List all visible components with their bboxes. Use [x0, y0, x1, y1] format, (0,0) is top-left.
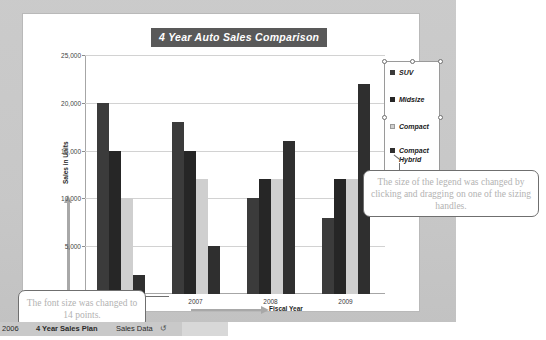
- bar-compact-hybrid-2008[interactable]: [283, 141, 295, 294]
- chart-title[interactable]: 4 Year Auto Sales Comparison: [151, 28, 327, 47]
- bar-suv-2007[interactable]: [172, 122, 184, 294]
- legend-item-compact[interactable]: Compact: [390, 122, 429, 131]
- bar-compact-2009[interactable]: [346, 179, 358, 294]
- y-axis-tick-label: 5,000: [65, 243, 81, 250]
- legend-sizing-handle[interactable]: [438, 59, 443, 64]
- bar-midsize-2008[interactable]: [259, 179, 271, 294]
- y-axis-tick-mark: [82, 103, 85, 104]
- y-axis-tick-mark: [82, 151, 85, 152]
- legend-swatch-icon: [390, 124, 395, 129]
- cell-reference-label: 2006: [2, 322, 19, 336]
- callout-legend-note: The size of the legend was changed by cl…: [363, 170, 539, 217]
- legend-item-label: Compact Hybrid: [399, 146, 429, 164]
- legend-item-midsize[interactable]: Midsize: [390, 95, 424, 104]
- bar-midsize-2006[interactable]: [109, 151, 121, 294]
- legend-swatch-icon: [390, 97, 395, 102]
- bar-compact-2007[interactable]: [196, 179, 208, 294]
- plot-area[interactable]: 05,00010,00015,00020,00025,0002006200720…: [85, 55, 385, 294]
- bar-compact-2008[interactable]: [271, 179, 283, 294]
- chart-object[interactable]: 4 Year Auto Sales Comparison Sales in Un…: [22, 13, 420, 312]
- bar-midsize-2009[interactable]: [334, 179, 346, 294]
- legend-swatch-icon: [390, 70, 395, 75]
- chart-inner: 4 Year Auto Sales Comparison Sales in Un…: [23, 14, 419, 311]
- screenshot-root: 4 Year Auto Sales Comparison Sales in Un…: [0, 0, 546, 340]
- legend-sizing-handle[interactable]: [382, 59, 387, 64]
- gridline: [85, 151, 385, 152]
- legend-sizing-handle[interactable]: [438, 115, 443, 120]
- legend-sizing-handle[interactable]: [410, 59, 415, 64]
- x-axis-tick-label: 2008: [263, 298, 277, 305]
- y-axis-tick-label: 10,000: [61, 195, 81, 202]
- gridline: [85, 103, 385, 104]
- legend-item-label: SUV: [399, 68, 413, 77]
- y-axis-tick-label: 20,000: [61, 99, 81, 106]
- sheet-tab-sales-data[interactable]: Sales Data: [116, 322, 153, 336]
- sheet-tab-4-year-sales-plan[interactable]: 4 Year Sales Plan: [36, 322, 98, 336]
- legend-item-suv[interactable]: SUV: [390, 68, 413, 77]
- y-axis-tick-mark: [82, 55, 85, 56]
- bar-midsize-2007[interactable]: [184, 151, 196, 294]
- legend-item-label: Midsize: [399, 95, 424, 104]
- bar-suv-2008[interactable]: [247, 198, 259, 294]
- y-axis-tick-mark: [82, 198, 85, 199]
- x-axis-tick-label: 2009: [338, 298, 352, 305]
- bar-compact-2006[interactable]: [121, 198, 133, 294]
- x-axis-title: Fiscal Year: [269, 305, 303, 312]
- y-axis-tick-label: 15,000: [61, 147, 81, 154]
- x-axis-tick-label: 2007: [188, 298, 202, 305]
- sheet-tab-corner: [182, 322, 228, 336]
- font-callout-leader: [145, 296, 169, 297]
- sheet-tab-bar: 2006 4 Year Sales Plan Sales Data ↺: [0, 322, 546, 340]
- bar-compact-hybrid-2007[interactable]: [208, 246, 220, 294]
- bar-suv-2009[interactable]: [322, 218, 334, 294]
- x-axis-arrow-annotation: [191, 309, 261, 311]
- legend-swatch-icon: [390, 148, 395, 153]
- chart-legend[interactable]: SUVMidsizeCompactCompact Hybrid: [384, 61, 440, 175]
- y-axis-tick-mark: [82, 246, 85, 247]
- legend-item-label: Compact: [399, 122, 429, 131]
- legend-sizing-handle[interactable]: [382, 115, 387, 120]
- y-axis-tick-label: 25,000: [61, 52, 81, 59]
- bar-suv-2006[interactable]: [97, 103, 109, 294]
- gridline: [85, 55, 385, 56]
- sheet-scroll-icon[interactable]: ↺: [160, 324, 167, 333]
